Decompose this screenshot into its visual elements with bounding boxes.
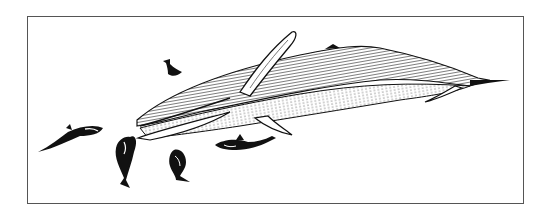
whale-illustration — [0, 0, 553, 218]
large-whale — [137, 32, 510, 140]
orca-1 — [38, 124, 103, 152]
whale-tail — [470, 80, 510, 86]
orca-5 — [163, 59, 182, 76]
orca-2 — [116, 136, 136, 188]
orca-4 — [215, 134, 276, 150]
orca-3 — [169, 150, 190, 182]
